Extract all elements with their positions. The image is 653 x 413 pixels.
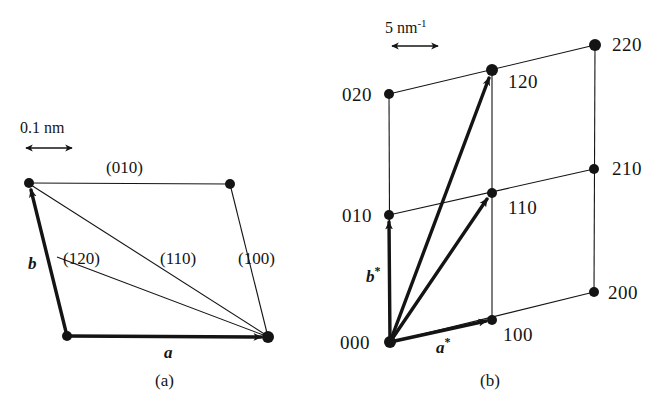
vector-b-star-symbol: * bbox=[375, 264, 381, 278]
reflection-spot bbox=[487, 188, 497, 198]
plane-label-110: (110) bbox=[160, 250, 196, 267]
crystallography-figure: 0.1 nm (010) (120) (110) (100) b a (a) 5… bbox=[0, 0, 653, 413]
panel-caption-a: (a) bbox=[155, 372, 174, 389]
scale-bar-b-label: 5 nm-1 bbox=[385, 18, 427, 36]
vector-b-star-letter: b bbox=[366, 267, 375, 286]
reflection-label-010: 010 bbox=[342, 206, 372, 225]
vector-a-star-symbol: * bbox=[445, 335, 451, 349]
reflection-label-220: 220 bbox=[612, 35, 642, 54]
lattice-node bbox=[225, 179, 235, 189]
vector-g110-arrow bbox=[390, 199, 487, 342]
reflection-spot bbox=[589, 287, 599, 297]
reflection-label-120: 120 bbox=[508, 72, 538, 91]
reflection-label-100: 100 bbox=[503, 325, 533, 344]
reflection-spot bbox=[384, 210, 394, 220]
reflection-label-020: 020 bbox=[342, 85, 372, 104]
figure-drawing bbox=[0, 0, 653, 413]
reflection-spot bbox=[384, 89, 394, 99]
plane-label-120: (120) bbox=[63, 250, 100, 267]
vector-label-a-star: a* bbox=[436, 336, 451, 356]
vector-label-b: b bbox=[28, 255, 37, 272]
panel-a-drawing bbox=[24, 148, 274, 343]
lattice-node bbox=[24, 178, 34, 188]
reflection-spot bbox=[589, 164, 599, 174]
lattice-node bbox=[262, 331, 274, 343]
reflection-label-210: 210 bbox=[612, 159, 642, 178]
scale-bar-a-label: 0.1 nm bbox=[20, 120, 64, 136]
cell-edge-top-010 bbox=[29, 183, 230, 184]
vector-g120-arrow bbox=[390, 78, 489, 342]
vector-a-star-letter: a bbox=[436, 338, 445, 357]
vector-a-arrow bbox=[67, 336, 261, 337]
panel-b-drawing bbox=[384, 39, 601, 348]
vector-label-a: a bbox=[164, 344, 173, 361]
plane-label-010: (010) bbox=[106, 159, 143, 176]
scale-bar-b-exponent: -1 bbox=[417, 17, 426, 29]
vector-label-b-star: b* bbox=[366, 265, 381, 285]
reflection-label-000: 000 bbox=[340, 333, 370, 352]
panel-caption-b: (b) bbox=[480, 372, 500, 389]
reflection-label-200: 200 bbox=[608, 283, 638, 302]
reflection-spot bbox=[589, 39, 601, 51]
reflection-spot bbox=[487, 315, 497, 325]
reflection-label-110: 110 bbox=[508, 198, 537, 217]
reflection-spot bbox=[384, 336, 396, 348]
lattice-node bbox=[62, 331, 72, 341]
scale-bar-b-value: 5 nm bbox=[385, 19, 417, 36]
reflection-spot bbox=[486, 64, 498, 76]
vector-b-star-arrow bbox=[389, 222, 390, 342]
plane-label-100: (100) bbox=[238, 250, 275, 267]
